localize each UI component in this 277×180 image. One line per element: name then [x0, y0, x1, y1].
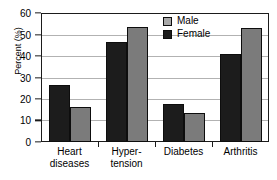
x-label-heart-diseases: Heart diseases [41, 146, 98, 169]
legend-label-male: Male [177, 16, 199, 26]
legend-item-male: Male [163, 16, 210, 26]
legend: Male Female [163, 16, 210, 39]
bar-chart: Percent (%) 60 50 40 30 20 10 0 [0, 0, 277, 180]
bar-diabetes-male [184, 113, 205, 142]
y-tick-label-30: 30 [20, 72, 31, 83]
x-label-line-2: diseases [41, 158, 98, 170]
bar-heart-diseases-female [49, 85, 70, 142]
legend-swatch-female-icon [163, 30, 172, 39]
y-tick-label-60: 60 [20, 8, 31, 19]
y-tick-label-10: 10 [20, 115, 31, 126]
x-label-line-1: Diabetes [155, 146, 212, 158]
x-axis-labels: Heart diseases Hyper- tension Diabetes A… [41, 146, 269, 169]
legend-label-female: Female [177, 29, 210, 39]
bar-hypertension-male [127, 27, 148, 142]
x-label-line-1: Heart [41, 146, 98, 158]
x-label-arthritis: Arthritis [212, 146, 269, 169]
y-axis-ticks: 60 50 40 30 20 10 0 [0, 13, 41, 142]
bar-heart-diseases-male [70, 107, 91, 142]
x-label-line-1: Arthritis [212, 146, 269, 158]
bar-group-heart-diseases [41, 13, 98, 142]
bar-arthritis-female [220, 54, 241, 142]
y-tick-label-0: 0 [25, 137, 31, 148]
x-label-line-1: Hyper- [98, 146, 155, 158]
bar-arthritis-male [241, 28, 262, 142]
x-label-line-2: tension [98, 158, 155, 170]
legend-swatch-male-icon [163, 17, 172, 26]
bar-group-arthritis [212, 13, 269, 142]
bar-hypertension-female [106, 42, 127, 142]
legend-item-female: Female [163, 29, 210, 39]
y-tick-label-40: 40 [20, 50, 31, 61]
bar-group-hypertension [98, 13, 155, 142]
x-label-hypertension: Hyper- tension [98, 146, 155, 169]
y-tick-label-20: 20 [20, 94, 31, 105]
bars-layer [41, 13, 269, 142]
y-tick-label-50: 50 [20, 29, 31, 40]
bar-diabetes-female [163, 104, 184, 142]
x-label-diabetes: Diabetes [155, 146, 212, 169]
